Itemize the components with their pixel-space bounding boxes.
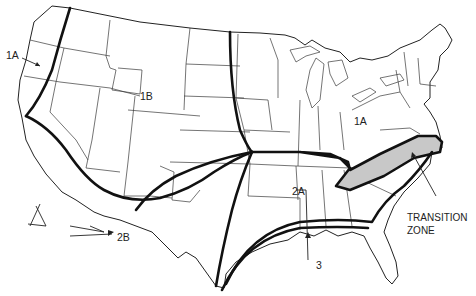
us-outline [18,6,452,288]
transition-zone-label-line2: ZONE [407,224,468,237]
transition-zone-label-line1: TRANSITION [407,211,468,224]
zone-label-3: 3 [316,260,322,271]
zone-label-2a: 2A [292,186,305,197]
zone-label-1b: 1B [140,91,153,102]
zone-label-2b: 2B [117,232,130,243]
us-map [0,0,476,296]
zone-label-1a-east: 1A [354,116,367,127]
zone-label-1a-west: 1A [6,50,19,61]
transition-zone-label: TRANSITION ZONE [407,211,468,237]
